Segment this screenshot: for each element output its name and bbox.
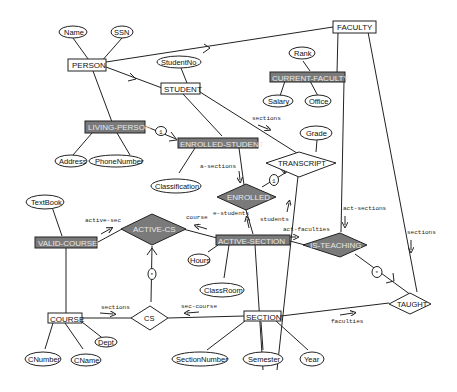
entity-faculty[interactable]: FACULTY xyxy=(333,21,376,33)
relationship-enrolled[interactable]: ENROLLED xyxy=(217,184,276,210)
svg-text:CName: CName xyxy=(74,356,99,365)
svg-text:Hours: Hours xyxy=(190,256,210,265)
attribute-grade[interactable]: Grade xyxy=(300,126,332,140)
entity-current-faculty[interactable]: CURRENT-FACULTY xyxy=(270,72,349,83)
svg-text:StudentNo: StudentNo xyxy=(161,58,196,67)
role-act-faculties: act-faculties xyxy=(283,226,330,233)
svg-text:COURSE: COURSE xyxy=(50,315,84,324)
attribute-name[interactable]: Name xyxy=(59,26,87,38)
svg-text:SECTION: SECTION xyxy=(246,313,282,322)
svg-text:TRANSCRIPT: TRANSCRIPT xyxy=(278,159,326,168)
er-diagram: sections a-sections e-students students … xyxy=(0,0,457,392)
svg-text:TextBook: TextBook xyxy=(31,198,62,207)
role-faculties: faculties xyxy=(331,318,364,325)
marker-star-cs: * xyxy=(150,272,154,279)
role-sections-faculty: sections xyxy=(407,229,436,236)
role-a-sections: a-sections xyxy=(200,163,236,170)
svg-text:Name: Name xyxy=(64,28,84,37)
relationship-transcript[interactable]: TRANSCRIPT xyxy=(266,152,336,177)
svg-text:Address: Address xyxy=(59,157,87,166)
cardinality-markers: 1 1 * * xyxy=(148,127,382,280)
entity-living-person[interactable]: LIVING-PERSON xyxy=(85,121,151,133)
relationship-taught[interactable]: TAUGHT xyxy=(389,293,431,314)
svg-text:ClassRoom: ClassRoom xyxy=(204,286,243,295)
attribute-textbook[interactable]: TextBook xyxy=(26,195,64,209)
svg-text:PhoneNumber: PhoneNumber xyxy=(95,157,144,166)
entity-active-section[interactable]: ACTIVE-SECTION xyxy=(216,235,290,246)
attribute-cname[interactable]: CName xyxy=(71,354,101,366)
svg-text:ACTIVE-CS: ACTIVE-CS xyxy=(133,225,176,234)
attribute-semester[interactable]: Semester xyxy=(243,352,283,366)
entity-enrolled-student[interactable]: ENROLLED-STUDENT xyxy=(178,138,264,149)
attribute-section-number[interactable]: SectionNumber xyxy=(172,352,228,366)
role-sec-course: sec-course xyxy=(181,303,217,310)
role-course: course xyxy=(186,214,208,221)
svg-text:Year: Year xyxy=(304,355,320,364)
svg-text:VALID-COURSE: VALID-COURSE xyxy=(38,239,97,248)
entity-section[interactable]: SECTION xyxy=(244,311,282,322)
svg-text:SSN: SSN xyxy=(114,28,129,37)
svg-text:LIVING-PERSON: LIVING-PERSON xyxy=(88,123,151,132)
svg-text:CURRENT-FACULTY: CURRENT-FACULTY xyxy=(272,74,349,83)
entity-valid-course[interactable]: VALID-COURSE xyxy=(35,237,97,248)
role-active-sec: active-sec xyxy=(85,217,121,224)
svg-text:Classification: Classification xyxy=(155,182,199,191)
svg-text:STUDENT: STUDENT xyxy=(164,85,202,94)
relationship-cs[interactable]: CS xyxy=(131,306,168,330)
svg-text:ENROLLED: ENROLLED xyxy=(227,193,270,202)
entity-person[interactable]: PERSON xyxy=(68,59,106,71)
attribute-rank[interactable]: Rank xyxy=(289,47,315,59)
svg-text:PERSON: PERSON xyxy=(72,61,106,70)
svg-text:Salary: Salary xyxy=(268,97,290,106)
svg-text:SectionNumber: SectionNumber xyxy=(176,355,228,364)
svg-text:ENROLLED-STUDENT: ENROLLED-STUDENT xyxy=(180,140,264,149)
svg-text:CS: CS xyxy=(144,314,154,323)
attribute-office[interactable]: Office xyxy=(305,95,331,107)
attribute-ssn[interactable]: SSN xyxy=(111,26,133,38)
svg-text:Grade: Grade xyxy=(306,129,327,138)
marker-one-living: 1 xyxy=(159,129,163,136)
svg-text:Dept: Dept xyxy=(98,338,115,347)
attribute-address[interactable]: Address xyxy=(55,155,87,167)
role-e-students: e-students xyxy=(213,210,249,217)
svg-text:CNumber: CNumber xyxy=(28,355,61,364)
marker-star-taught: * xyxy=(375,270,379,277)
svg-text:TAUGHT: TAUGHT xyxy=(397,300,428,309)
attribute-phone-number[interactable]: PhoneNumber xyxy=(89,155,144,167)
entity-student[interactable]: STUDENT xyxy=(161,83,202,94)
relationship-active-cs[interactable]: ACTIVE-CS xyxy=(121,214,186,245)
marker-one-transcript: 1 xyxy=(272,178,276,185)
svg-text:IS-TEACHING: IS-TEACHING xyxy=(310,241,362,250)
svg-text:ACTIVE-SECTION: ACTIVE-SECTION xyxy=(218,237,285,246)
role-students: students xyxy=(260,216,289,223)
attribute-hours[interactable]: Hours xyxy=(188,254,210,266)
role-act-sections: act-sections xyxy=(343,205,387,212)
svg-text:FACULTY: FACULTY xyxy=(337,23,373,32)
attribute-dept[interactable]: Dept xyxy=(95,337,117,347)
svg-text:Semester: Semester xyxy=(248,355,281,364)
attribute-year[interactable]: Year xyxy=(300,352,324,366)
attribute-classroom[interactable]: ClassRoom xyxy=(200,283,244,297)
relationship-is-teaching[interactable]: IS-TEACHING xyxy=(303,233,367,257)
role-sections-student: sections xyxy=(252,115,281,122)
attribute-student-no[interactable]: StudentNo xyxy=(157,56,201,68)
entity-course[interactable]: COURSE xyxy=(48,313,84,324)
svg-text:Rank: Rank xyxy=(294,49,312,58)
attribute-cnumber[interactable]: CNumber xyxy=(25,352,61,366)
attribute-classification[interactable]: Classification xyxy=(151,179,201,193)
role-sections-course: sections xyxy=(101,304,130,311)
attribute-salary[interactable]: Salary xyxy=(263,95,293,107)
svg-text:Office: Office xyxy=(309,97,328,106)
